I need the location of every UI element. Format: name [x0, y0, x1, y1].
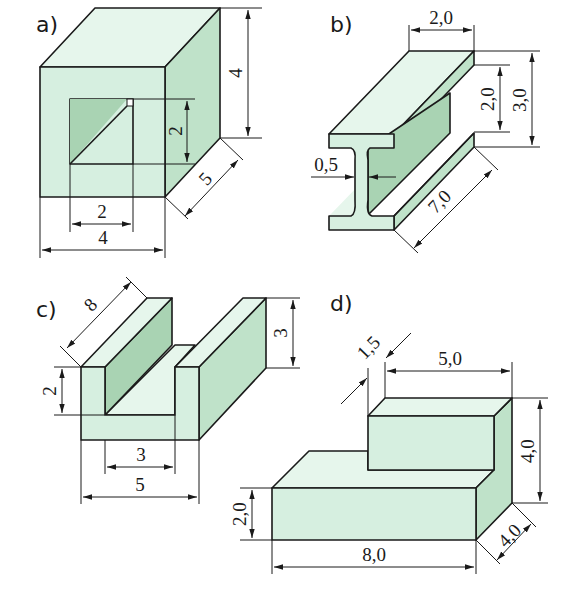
dim-width: 4 — [98, 227, 108, 248]
dim-web-thickness: 0,5 — [314, 154, 338, 175]
dim-groove-width: 3 — [136, 444, 146, 465]
dim-total-height: 4,0 — [517, 439, 538, 463]
dim-groove-depth: 2 — [39, 386, 60, 396]
dim-height: 3 — [270, 328, 291, 338]
figure-b-label: b) — [330, 12, 353, 37]
upper-block-front — [368, 416, 494, 470]
dim-depth: 4,0 — [494, 520, 526, 552]
dim-web-height: 2,0 — [477, 87, 498, 111]
dim-total-height: 3,0 — [509, 88, 530, 112]
figure-d-label: d) — [330, 291, 353, 316]
dim-base-width: 8,0 — [362, 544, 386, 565]
figure-a: a) 4 2 5 2 4 — [36, 8, 262, 258]
dim-total-width: 5 — [135, 474, 145, 495]
dim-base-height: 2,0 — [229, 502, 250, 526]
dim-length: 8 — [79, 294, 101, 315]
figure-b: b) 2,0 3,0 2,0 0,5 7,0 — [311, 7, 540, 253]
base-block-front — [272, 488, 476, 540]
dim-hole-height: 2 — [165, 126, 186, 136]
figure-a-label: a) — [36, 12, 58, 37]
dim-height: 4 — [225, 68, 246, 78]
dim-hole-width: 2 — [97, 201, 107, 222]
technical-drawings: a) 4 2 5 2 4 b) — [0, 0, 574, 616]
dim-top-width: 5,0 — [438, 348, 462, 369]
figure-c: c) 8 3 2 3 5 — [36, 277, 300, 504]
dim-flange-width: 2,0 — [429, 7, 453, 28]
figure-c-label: c) — [36, 297, 57, 322]
dim-offset: 1,5 — [353, 332, 385, 364]
